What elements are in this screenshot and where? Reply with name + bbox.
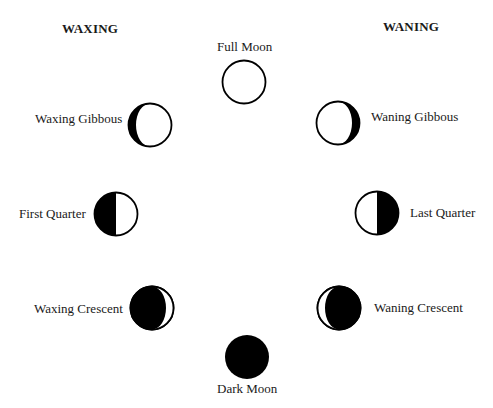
- waning-gibbous-icon: [317, 102, 360, 145]
- waxing-crescent-icon: [131, 287, 174, 330]
- dark-moon-icon: [225, 335, 269, 379]
- moon-phase-diagram: [0, 0, 493, 408]
- last-quarter-icon: [356, 192, 399, 235]
- waxing-gibbous-icon: [129, 104, 172, 147]
- first-quarter-icon: [95, 193, 138, 236]
- waning-crescent-icon: [318, 287, 361, 330]
- full-moon-icon: [223, 61, 266, 104]
